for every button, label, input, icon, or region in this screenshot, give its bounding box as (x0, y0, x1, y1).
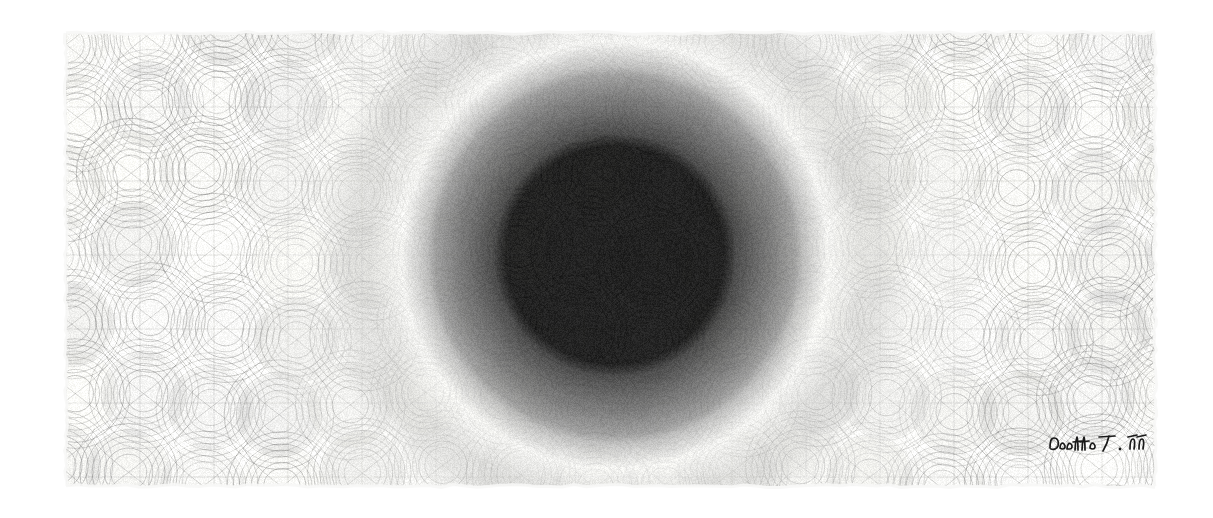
artwork-stage (0, 0, 1213, 518)
artwork-image (0, 0, 1213, 518)
